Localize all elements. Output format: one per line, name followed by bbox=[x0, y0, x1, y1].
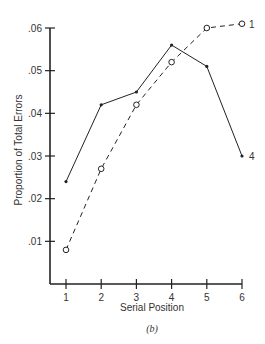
filled-dot-marker bbox=[135, 90, 138, 93]
x-tick-label: 2 bbox=[98, 292, 104, 303]
open-circle-marker bbox=[63, 247, 69, 253]
series-end-label: 4 bbox=[249, 151, 255, 162]
y-tick-label: .03 bbox=[28, 151, 42, 162]
axes: .01.02.03.04.05.06123456 bbox=[28, 23, 245, 304]
open-circle-marker bbox=[204, 25, 210, 31]
y-tick-label: .04 bbox=[28, 108, 42, 119]
x-tick-label: 1 bbox=[63, 292, 69, 303]
solid-series-line bbox=[66, 45, 242, 182]
y-tick-label: .02 bbox=[28, 193, 42, 204]
dashed-series-line bbox=[66, 24, 242, 250]
y-tick-label: .06 bbox=[28, 23, 42, 34]
open-circle-marker bbox=[98, 166, 104, 172]
y-tick-label: .05 bbox=[28, 65, 42, 76]
filled-dot-marker bbox=[64, 180, 67, 183]
filled-dot-marker bbox=[170, 43, 173, 46]
line-chart: .01.02.03.04.05.06123456 41 Proportion o… bbox=[0, 0, 265, 344]
open-circle-marker bbox=[134, 102, 140, 108]
x-tick-label: 6 bbox=[239, 292, 245, 303]
y-tick-label: .01 bbox=[28, 236, 42, 247]
x-tick-label: 5 bbox=[204, 292, 210, 303]
filled-dot-marker bbox=[205, 65, 208, 68]
open-circle-marker bbox=[239, 21, 245, 27]
filled-dot-marker bbox=[100, 103, 103, 106]
x-axis-title: Serial Position bbox=[120, 302, 184, 313]
open-circle-marker bbox=[169, 59, 175, 65]
series-end-label: 1 bbox=[249, 19, 255, 30]
series-layer: 41 bbox=[63, 19, 255, 253]
figure-caption: (b) bbox=[146, 323, 158, 335]
y-axis-title: Proportion of Total Errors bbox=[13, 95, 24, 206]
filled-dot-marker bbox=[240, 154, 243, 157]
